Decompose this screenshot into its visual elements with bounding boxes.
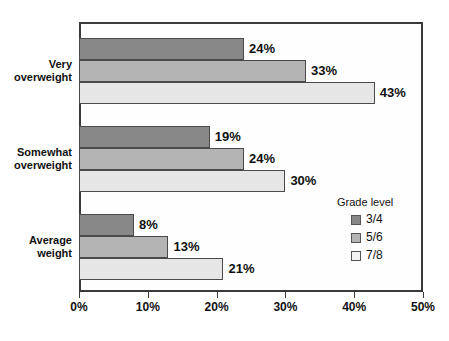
x-axis-tick-label: 20% bbox=[205, 300, 229, 314]
legend-entry-5-6: 5/6 bbox=[351, 232, 421, 243]
bar-value-label: 21% bbox=[228, 258, 254, 280]
legend-entry-label: 5/6 bbox=[366, 232, 383, 243]
legend-entry-label: 7/8 bbox=[366, 250, 383, 261]
x-axis-tick bbox=[354, 292, 355, 298]
category-label-very-overweight: Very overweight bbox=[0, 58, 72, 84]
legend-swatch-icon bbox=[351, 251, 361, 261]
legend-entry-7-8: 7/8 bbox=[351, 250, 421, 261]
x-axis-tick bbox=[148, 292, 149, 298]
bar-average-weight-grade-7-8 bbox=[79, 258, 223, 280]
bar-average-weight-grade-3-4 bbox=[79, 214, 134, 236]
bar-value-label: 8% bbox=[139, 214, 158, 236]
bar-value-label: 43% bbox=[380, 82, 406, 104]
x-axis-tick-label: 50% bbox=[411, 300, 435, 314]
bar-value-label: 30% bbox=[290, 170, 316, 192]
legend-swatch-icon bbox=[351, 233, 361, 243]
chart-title bbox=[0, 0, 449, 2]
category-label-average-weight: Average weight bbox=[0, 234, 72, 260]
x-axis-tick bbox=[79, 292, 80, 298]
category-label-somewhat-overweight: Somewhat overweight bbox=[0, 146, 72, 172]
bar-value-label: 19% bbox=[215, 126, 241, 148]
legend-entries: 3/45/67/8 bbox=[337, 214, 421, 261]
x-axis-tick-label: 30% bbox=[273, 300, 297, 314]
legend-entry-3-4: 3/4 bbox=[351, 214, 421, 225]
bar-value-label: 24% bbox=[249, 148, 275, 170]
x-axis-tick bbox=[217, 292, 218, 298]
x-axis-tick bbox=[285, 292, 286, 298]
bar-value-label: 33% bbox=[311, 60, 337, 82]
bar-very-overweight-grade-5-6 bbox=[79, 60, 306, 82]
bar-very-overweight-grade-3-4 bbox=[79, 38, 244, 60]
legend-entry-label: 3/4 bbox=[366, 214, 383, 225]
legend-swatch-icon bbox=[351, 215, 361, 225]
x-axis-tick-label: 10% bbox=[136, 300, 160, 314]
bar-somewhat-overweight-grade-3-4 bbox=[79, 126, 210, 148]
bar-chart-figure: Very overweight Somewhat overweight Aver… bbox=[0, 0, 449, 341]
x-axis-tick-label: 40% bbox=[342, 300, 366, 314]
bar-somewhat-overweight-grade-5-6 bbox=[79, 148, 244, 170]
bar-average-weight-grade-5-6 bbox=[79, 236, 168, 258]
legend-title: Grade level bbox=[337, 196, 421, 208]
bar-value-label: 24% bbox=[249, 38, 275, 60]
bar-very-overweight-grade-7-8 bbox=[79, 82, 375, 104]
legend: Grade level 3/45/67/8 bbox=[337, 196, 421, 268]
x-axis-tick bbox=[423, 292, 424, 298]
bar-value-label: 13% bbox=[173, 236, 199, 258]
bar-somewhat-overweight-grade-7-8 bbox=[79, 170, 285, 192]
x-axis-tick-label: 0% bbox=[70, 300, 87, 314]
